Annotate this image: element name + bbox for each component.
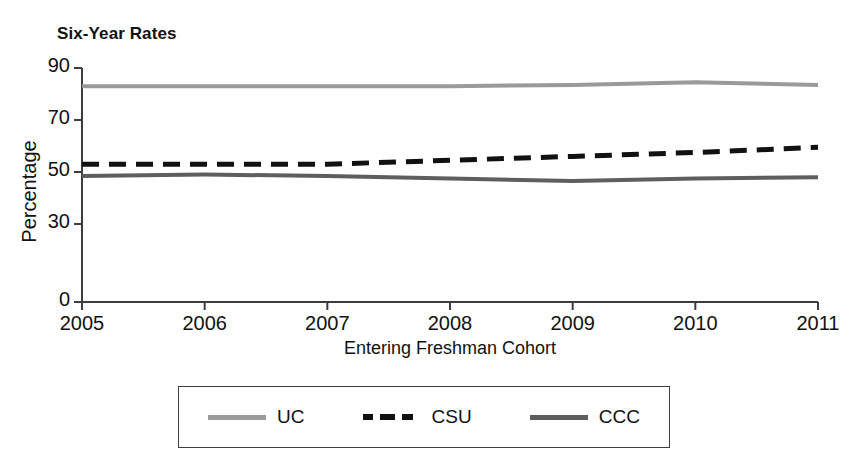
x-tick-label: 2006 [160, 312, 250, 335]
x-tick-label: 2007 [282, 312, 372, 335]
series-line-uc [82, 82, 818, 86]
y-tick-label: 50 [24, 158, 70, 181]
legend-item-uc[interactable]: UC [208, 406, 304, 428]
legend-swatch-ccc [530, 415, 588, 420]
legend-item-csu[interactable]: CSU [363, 406, 472, 428]
y-tick-label: 90 [24, 54, 70, 77]
axis-lines [82, 68, 818, 302]
series-line-ccc [82, 175, 818, 182]
chart-legend: UCCSUCCC [178, 386, 670, 448]
y-tick-label: 30 [24, 210, 70, 233]
series-line-csu [82, 147, 818, 164]
legend-swatch-uc [208, 415, 266, 420]
chart-figure: Six-Year Rates Percentage Entering Fresh… [0, 0, 858, 475]
y-tick-label: 0 [24, 288, 70, 311]
legend-label: CSU [432, 406, 472, 428]
series-lines [82, 82, 818, 181]
legend-swatch-csu [363, 414, 421, 420]
x-tick-label: 2009 [528, 312, 618, 335]
x-tick-label: 2005 [37, 312, 127, 335]
x-tick-label: 2011 [773, 312, 858, 335]
legend-item-ccc[interactable]: CCC [530, 406, 640, 428]
x-tick-label: 2010 [650, 312, 740, 335]
tick-marks [74, 68, 818, 310]
x-tick-label: 2008 [405, 312, 495, 335]
legend-label: CCC [599, 406, 640, 428]
legend-label: UC [277, 406, 304, 428]
y-tick-label: 70 [24, 106, 70, 129]
